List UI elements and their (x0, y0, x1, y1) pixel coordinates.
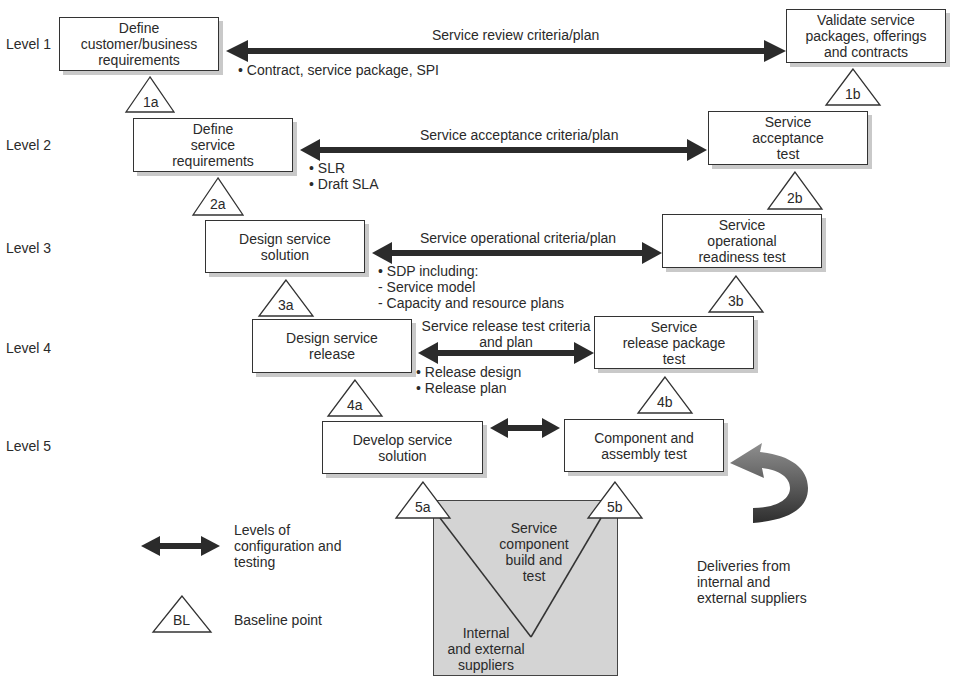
baseline-2b-label: 2b (787, 190, 803, 206)
legend-double-arrow (141, 536, 220, 556)
arrow-label-level-3: Service operational criteria/plan (420, 230, 616, 246)
service-component-build-label: Service component build and test (496, 520, 572, 584)
double-arrow-level-1 (226, 40, 786, 62)
box-define-customer-business-requirements: Define customer/business requirements (59, 17, 219, 71)
legend-arrow-label: Levels of configuration and testing (234, 522, 341, 570)
baseline-5b-label: 5b (607, 499, 623, 515)
deliveries-label: Deliveries from internal and external su… (697, 558, 807, 606)
arrow-notes-level-4: • Release design • Release plan (416, 364, 521, 396)
box-component-assembly-test: Component and assembly test (564, 419, 724, 472)
box-service-acceptance-test: Service acceptance test (708, 111, 868, 165)
box-validate-service-packages: Validate service packages, offerings and… (786, 9, 946, 63)
arrow-label-level-2: Service acceptance criteria/plan (420, 127, 618, 143)
baseline-3b-label: 3b (728, 293, 744, 309)
legend-baseline-symbol: BL (173, 612, 190, 628)
legend-baseline-label: Baseline point (234, 612, 322, 628)
delivery-curved-arrow (730, 443, 808, 523)
baseline-5a-label: 5a (415, 499, 431, 515)
baseline-3a-label: 3a (278, 297, 294, 313)
baseline-1a-label: 1a (143, 94, 159, 110)
box-define-service-requirements: Define service requirements (133, 118, 293, 172)
box-design-service-release: Design service release (252, 319, 412, 373)
box-develop-service-solution: Develop service solution (322, 421, 483, 474)
internal-external-suppliers-label: Internal and external suppliers (436, 625, 536, 673)
arrow-notes-level-1: • Contract, service package, SPI (238, 62, 439, 78)
arrow-notes-level-3: • SDP including: - Service model - Capac… (378, 263, 564, 311)
box-design-service-solution: Design service solution (205, 220, 365, 273)
baseline-1b-label: 1b (845, 86, 861, 102)
double-arrow-level-5 (490, 418, 560, 438)
arrow-notes-level-2: • SLR • Draft SLA (309, 160, 378, 192)
arrow-label-level-4: Service release test criteria and plan (418, 318, 594, 350)
arrow-label-level-1: Service review criteria/plan (432, 27, 599, 43)
baseline-4b-label: 4b (657, 394, 673, 410)
baseline-2a-label: 2a (210, 196, 226, 212)
baseline-4a-label: 4a (347, 397, 363, 413)
box-service-operational-readiness-test: Service operational readiness test (662, 214, 822, 268)
box-service-release-package-test: Service release package test (594, 316, 754, 369)
